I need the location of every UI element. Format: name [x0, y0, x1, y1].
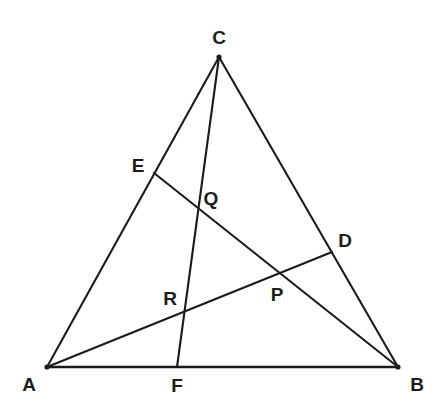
point-label-F: F	[171, 376, 183, 395]
point-label-R: R	[163, 289, 177, 308]
vertex-dot-A	[44, 364, 49, 369]
point-label-A: A	[22, 375, 36, 394]
vertex-dot-B	[395, 364, 400, 369]
geometry-diagram: C E Q D R P A F B	[0, 0, 444, 410]
segment-side-CB	[219, 57, 398, 367]
point-label-B: B	[410, 375, 424, 394]
vertex-dot-C	[216, 54, 221, 59]
segment-side-AC	[47, 57, 219, 367]
triangle-figure-svg	[0, 0, 444, 410]
segment-cevian-CF	[177, 57, 219, 367]
point-label-D: D	[338, 231, 352, 250]
point-label-E: E	[132, 156, 145, 175]
point-label-C: C	[212, 28, 226, 47]
point-label-Q: Q	[204, 189, 219, 208]
point-label-P: P	[271, 285, 284, 304]
